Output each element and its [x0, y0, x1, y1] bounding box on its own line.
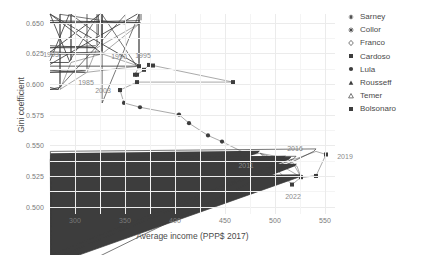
gridline-horizontal: [50, 23, 335, 24]
y-tick-label: 0.525: [26, 173, 44, 180]
legend-item-temer[interactable]: Temer: [344, 89, 429, 102]
x-tick-label: 350: [119, 217, 131, 224]
x-tick-label: 550: [319, 217, 331, 224]
diamond-open-marker-icon: [344, 36, 358, 49]
triangle-open-marker-icon: [344, 89, 358, 102]
gridline-vertical: [275, 14, 276, 214]
y-axis-tick-labels: 0.5000.5250.5500.5750.6000.6250.650: [6, 14, 44, 214]
star-marker-icon: [344, 23, 358, 36]
y-tick-label: 0.575: [26, 111, 44, 118]
circle-marker-icon: [344, 63, 358, 76]
gridline-vertical: [325, 14, 326, 214]
scatter-chart: Gini coefficient 0.5000.5250.5500.5750.6…: [0, 0, 429, 255]
gridline-vertical-minor: [300, 14, 301, 214]
legend-item-cardoso[interactable]: Cardoso: [344, 50, 429, 63]
legend-item-rousseff[interactable]: Rousseff: [344, 76, 429, 89]
point-annotation-1995: 1995: [135, 51, 151, 58]
legend-label: Temer: [358, 91, 382, 100]
gridline-vertical-minor: [200, 14, 201, 214]
y-tick-label: 0.550: [26, 142, 44, 149]
gridline-vertical-minor: [150, 14, 151, 214]
x-tick-label: 500: [269, 217, 281, 224]
gridline-horizontal: [50, 176, 335, 177]
legend-label: Rousseff: [358, 78, 391, 87]
legend-item-collor[interactable]: Collor: [344, 23, 429, 36]
legend-label: Lula: [358, 65, 375, 74]
gridline-horizontal: [50, 207, 335, 208]
gridline-vertical: [125, 14, 126, 214]
legend-label: Sarney: [358, 12, 385, 21]
gridline-horizontal: [50, 115, 335, 116]
y-tick-label: 0.500: [26, 203, 44, 210]
y-tick-label: 0.650: [26, 19, 44, 26]
x-axis-title: Average income (PPP$ 2017): [50, 231, 335, 241]
gridline-horizontal: [50, 53, 335, 54]
x-tick-label: 400: [169, 217, 181, 224]
gridline-horizontal-minor: [50, 38, 335, 39]
point-annotation-2019: 2019: [337, 152, 353, 159]
triangle-marker-icon: [344, 76, 358, 89]
square-marker-icon: [344, 50, 358, 63]
x-tick-label: 300: [69, 217, 81, 224]
x-tick-label: 450: [219, 217, 231, 224]
legend: Sarney CollorFrancoCardosoLulaRousseffTe…: [344, 10, 429, 116]
gridline-horizontal-minor: [50, 130, 335, 131]
gridline-vertical: [175, 14, 176, 214]
point-annotation-1985: 1985: [78, 79, 94, 86]
legend-item-sarney[interactable]: Sarney: [344, 10, 429, 23]
gridline-vertical-minor: [250, 14, 251, 214]
legend-item-bolsonaro[interactable]: Bolsonaro: [344, 102, 429, 115]
gridline-vertical: [225, 14, 226, 214]
legend-label: Franco: [358, 38, 385, 47]
y-tick-label: 0.625: [26, 50, 44, 57]
point-annotation-2016: 2016: [287, 144, 303, 151]
legend-label: Cardoso: [358, 52, 390, 61]
point-annotation-2011: 2011: [238, 162, 253, 169]
point-annotation-1993: 1993: [43, 50, 59, 57]
legend-label: Bolsonaro: [358, 104, 396, 113]
gridline-horizontal-minor: [50, 161, 335, 162]
gridline-vertical-minor: [100, 14, 101, 214]
point-annotation-1990: 1990: [111, 52, 127, 59]
plot-area: 199319851990199520032011201620192022: [50, 14, 335, 214]
point-annotation-2003: 2003: [95, 87, 111, 94]
square-filled-marker-icon: [344, 102, 358, 115]
x-axis-tick-labels: 300350400450500550: [50, 217, 335, 229]
legend-label: Collor: [358, 25, 381, 34]
legend-item-lula[interactable]: Lula: [344, 63, 429, 76]
legend-item-franco[interactable]: Franco: [344, 36, 429, 49]
y-tick-label: 0.600: [26, 80, 44, 87]
gridline-vertical: [75, 14, 76, 214]
gridline-horizontal-minor: [50, 69, 335, 70]
asterisk-marker-icon: [344, 10, 358, 23]
gridline-horizontal-minor: [50, 99, 335, 100]
point-annotation-2022: 2022: [285, 192, 301, 199]
